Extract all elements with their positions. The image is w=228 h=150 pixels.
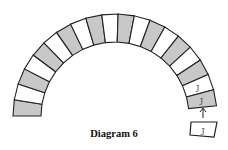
- arch-blocks: JJ: [13, 14, 216, 116]
- diagram-caption: Diagram 6: [0, 128, 228, 139]
- arch-block-label: J: [199, 96, 203, 105]
- up-arrow-icon: [200, 108, 206, 118]
- arch-block-label: J: [195, 83, 199, 92]
